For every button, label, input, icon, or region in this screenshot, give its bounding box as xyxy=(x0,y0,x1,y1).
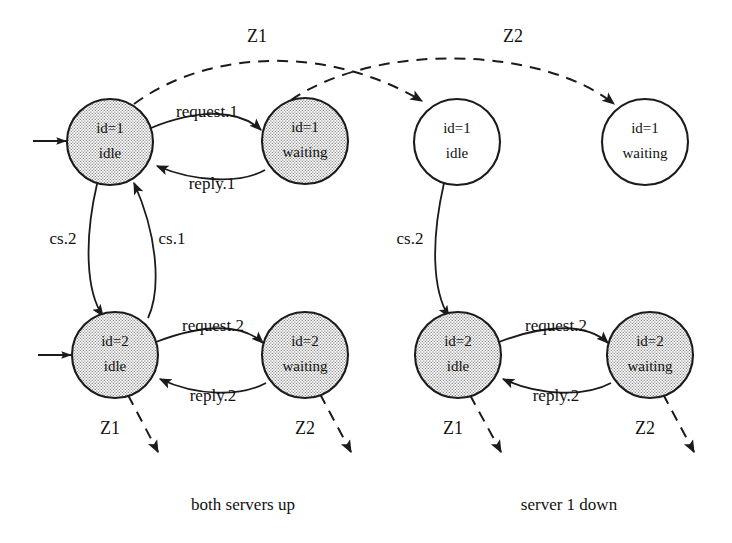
edge-label-cs-2-left: cs.2 xyxy=(50,229,77,248)
state-label-line1: id=1 xyxy=(631,120,659,136)
state-label-line1: id=2 xyxy=(101,333,129,349)
zone-label-z2-bottom-left: Z2 xyxy=(295,418,315,438)
state-label-line1: id=2 xyxy=(636,333,664,349)
panel-caption-group: both servers up server 1 down xyxy=(191,495,618,514)
state-label-line1: id=1 xyxy=(291,119,319,135)
edge-label-cs-2-right: cs.2 xyxy=(397,229,424,248)
zone-edge-z1-bottom-right xyxy=(470,395,501,452)
state-node-n6[interactable]: id=1 waiting xyxy=(602,99,688,185)
edge-cs-2-right xyxy=(435,183,449,317)
zone-label-z2-bottom-right: Z2 xyxy=(635,418,655,438)
state-label-line2: waiting xyxy=(628,358,673,374)
zone-label-z2-top: Z2 xyxy=(503,26,523,46)
state-label-line2: waiting xyxy=(623,145,668,161)
zone-edge-z2-top xyxy=(291,58,614,104)
panel-caption-both-up: both servers up xyxy=(191,495,295,514)
edge-cs-2-left xyxy=(89,184,103,316)
zone-label-z1-top: Z1 xyxy=(247,26,267,46)
state-circle[interactable] xyxy=(414,99,500,185)
edge-label-reply-2-left: reply.2 xyxy=(190,386,237,405)
edge-label-reply-2-right: reply.2 xyxy=(533,386,580,405)
zone-edge-z2-bottom-left xyxy=(320,394,351,452)
edge-label-reply-1: reply.1 xyxy=(189,174,236,193)
state-circle[interactable] xyxy=(602,99,688,185)
edge-label-request-2-right: request.2 xyxy=(525,316,587,335)
state-node-n5[interactable]: id=1 idle xyxy=(414,99,500,185)
state-circle[interactable] xyxy=(607,312,693,398)
state-transition-diagram: id=1 idle id=1 waiting id=2 idle id=2 wa… xyxy=(0,0,732,543)
state-circle[interactable] xyxy=(262,98,348,184)
state-label-line2: waiting xyxy=(283,358,328,374)
edge-label-request-2-left: request.2 xyxy=(182,316,244,335)
state-label-line1: id=1 xyxy=(443,120,471,136)
edge-label-cs-1-left: cs.1 xyxy=(159,229,186,248)
state-circle[interactable] xyxy=(262,312,348,398)
state-circle[interactable] xyxy=(67,99,153,185)
panel-caption-server1-down: server 1 down xyxy=(521,495,618,514)
zone-label-z1-bottom-right: Z1 xyxy=(443,418,463,438)
state-circle[interactable] xyxy=(72,312,158,398)
state-label-line2: waiting xyxy=(283,144,328,160)
initial-state-marker-group xyxy=(33,141,71,355)
state-node-n2[interactable]: id=1 waiting xyxy=(262,98,348,184)
state-label-line1: id=2 xyxy=(444,333,472,349)
state-label-line2: idle xyxy=(99,145,122,161)
zone-edge-z1-top xyxy=(134,61,422,104)
state-label-line2: idle xyxy=(446,145,469,161)
state-node-n3[interactable]: id=2 idle xyxy=(72,312,158,398)
zone-edge-z2-bottom-right xyxy=(663,394,694,452)
state-node-n8[interactable]: id=2 waiting xyxy=(607,312,693,398)
state-node-group: id=1 idle id=1 waiting id=2 idle id=2 wa… xyxy=(67,98,693,398)
state-label-line1: id=1 xyxy=(96,120,124,136)
diagram-canvas: id=1 idle id=1 waiting id=2 idle id=2 wa… xyxy=(0,0,732,543)
state-label-line2: idle xyxy=(447,358,470,374)
state-circle[interactable] xyxy=(415,312,501,398)
zone-label-z1-bottom-left: Z1 xyxy=(100,418,120,438)
edge-label-request-1: request.1 xyxy=(176,102,238,121)
state-node-n1[interactable]: id=1 idle xyxy=(67,99,153,185)
state-label-line1: id=2 xyxy=(291,333,319,349)
transition-edge-group xyxy=(89,114,611,393)
edge-cs-1-left xyxy=(134,183,156,318)
state-node-n4[interactable]: id=2 waiting xyxy=(262,312,348,398)
zone-edge-z1-bottom-left xyxy=(128,395,158,452)
state-label-line2: idle xyxy=(104,358,127,374)
state-node-n7[interactable]: id=2 idle xyxy=(415,312,501,398)
